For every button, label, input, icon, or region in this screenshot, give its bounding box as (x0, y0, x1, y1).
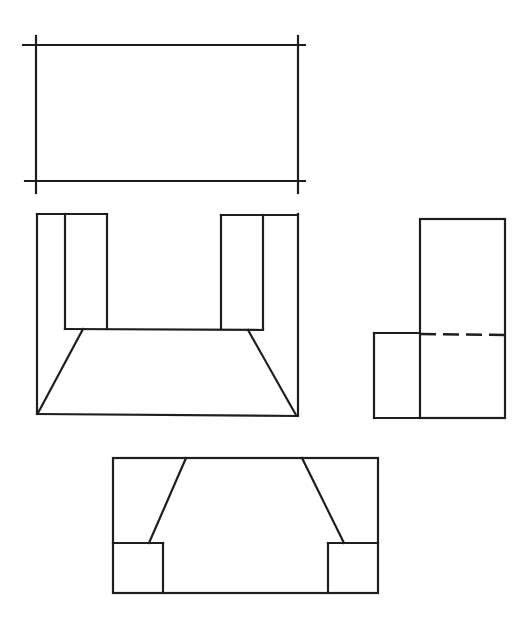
bottom-view (113, 458, 378, 593)
front-view (37, 214, 298, 416)
hidden-line (420, 334, 505, 335)
top-view-blank (23, 36, 305, 193)
orthographic-drawing (0, 0, 525, 623)
side-view (374, 219, 505, 418)
